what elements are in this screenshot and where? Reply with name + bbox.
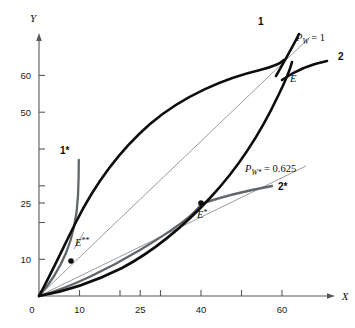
y-tick-labels: 10 25 50 60	[20, 70, 31, 265]
label-price-pwstar-sub: W*	[251, 168, 261, 177]
x-tick-label-0: 0	[29, 304, 34, 315]
y-ticks	[39, 75, 45, 259]
x-tick-label-60: 60	[277, 304, 288, 315]
x-tick-label-25: 25	[135, 304, 146, 315]
label-price-pwstar-value: = 0.625	[261, 163, 296, 174]
y-axis-label: Y	[30, 12, 38, 24]
label-point-e-star: E*	[196, 208, 207, 221]
label-point-e: E	[289, 73, 297, 84]
x-tick-label-40: 40	[196, 304, 207, 315]
x-tick-label-10: 10	[74, 304, 85, 315]
x-axis-arrowhead	[327, 293, 335, 299]
chart-svg: 10 25 50 60 0 10 25 40 60 Y X	[0, 0, 355, 328]
x-axis-label: X	[341, 290, 350, 302]
point-marker-e-double-star	[68, 258, 74, 264]
y-tick-label-10: 10	[20, 254, 31, 265]
label-point-e-star-mark: *	[203, 208, 207, 217]
curve-2-star	[39, 186, 272, 296]
y-axis-arrowhead	[36, 33, 42, 41]
label-point-e-double-star: E**	[74, 236, 89, 249]
y-tick-label-25: 25	[20, 198, 31, 209]
point-marker-e-star	[198, 200, 204, 206]
x-ticks	[80, 290, 283, 296]
label-curve-1: 1	[258, 16, 264, 27]
label-curve-2: 2	[338, 51, 344, 62]
label-curve-1-star: 1*	[60, 145, 70, 156]
y-tick-label-50: 50	[20, 107, 31, 118]
label-point-e-double-star-mark: **	[81, 236, 89, 245]
label-price-pw1-value: = 1	[309, 32, 325, 43]
curve-2	[39, 62, 292, 296]
offer-curve-diagram: 10 25 50 60 0 10 25 40 60 Y X	[0, 0, 355, 328]
y-tick-label-60: 60	[20, 70, 31, 81]
label-curve-2-star: 2*	[278, 181, 288, 192]
x-tick-labels: 0 10 25 40 60	[29, 304, 287, 315]
label-price-pw1: PW = 1	[295, 32, 325, 46]
